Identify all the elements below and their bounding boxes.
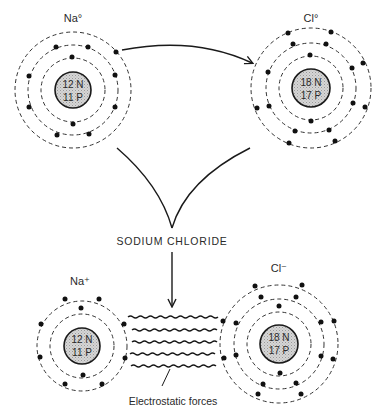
- label-pointer-line: [162, 369, 170, 386]
- sodium-ion-label: Na⁺: [70, 275, 90, 287]
- nucleus: [292, 69, 330, 107]
- sodium-atom-neutral: Na° 12 N 11 P: [15, 12, 131, 148]
- electron-transfer-arrow: [122, 45, 252, 63]
- neutron-count: 18 N: [300, 77, 321, 88]
- chloride-ion: Cl⁻ 18 N 17 P: [220, 262, 338, 403]
- chlorine-atom-label: Cl°: [304, 12, 319, 24]
- neutron-count: 18 N: [268, 332, 289, 343]
- proton-count: 11 P: [72, 347, 92, 358]
- chlorine-atom-neutral: Cl° 18 N 17 P: [251, 12, 371, 148]
- electrostatic-forces-label: Electrostatic forces: [129, 395, 218, 407]
- sodium-ion: Na⁺ 12 N 11 P: [37, 275, 128, 391]
- compound-title: SODIUM CHLORIDE: [116, 235, 227, 247]
- merge-curves: [117, 148, 250, 228]
- nucleus: [260, 325, 298, 363]
- sodium-chloride-diagram: Na° 12 N 11 P Cl° 18 N 17: [0, 0, 381, 414]
- sodium-atom-label: Na°: [64, 12, 82, 24]
- proton-count: 11 P: [63, 92, 83, 103]
- neutron-count: 12 N: [71, 334, 92, 345]
- electrostatic-force-lines: [128, 316, 218, 367]
- neutron-count: 12 N: [62, 79, 83, 90]
- chloride-ion-label: Cl⁻: [271, 262, 287, 274]
- proton-count: 17 P: [301, 90, 322, 101]
- proton-count: 17 P: [269, 345, 290, 356]
